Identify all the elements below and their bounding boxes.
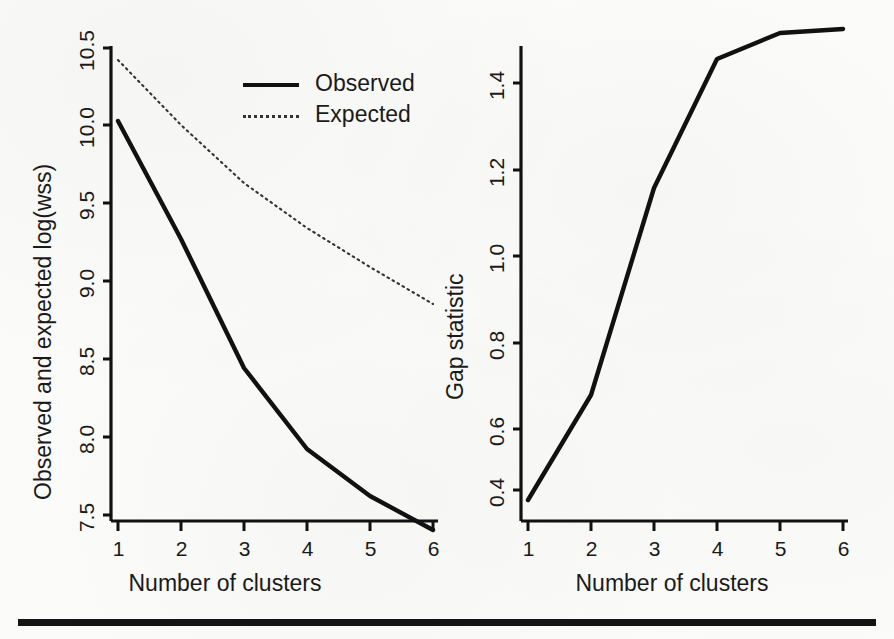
right-x-tick-label-1: 1 <box>521 538 536 559</box>
right-y-tick-label-1-4: 1.4 <box>486 56 507 116</box>
left-x-tick-label-5: 5 <box>363 538 378 559</box>
left-y-tick-label-10-5: 10.5 <box>76 21 97 81</box>
left-y-tick-label-7-5: 7.5 <box>76 488 97 548</box>
legend-entry-observed: Observed <box>243 70 433 101</box>
legend-label-observed: Observed <box>315 70 415 97</box>
legend: Observed Expected <box>243 70 433 132</box>
right-y-tick-label-1-0: 1.0 <box>486 229 507 289</box>
right-y-tick-label-0-8: 0.8 <box>486 316 507 376</box>
left-x-tick-label-2: 2 <box>174 538 189 559</box>
dotted-line-key-icon <box>243 115 299 118</box>
figure-canvas: 10.5 10.0 9.5 9.0 8.5 8.0 7.5 1 2 3 4 5 … <box>0 0 894 639</box>
left-y-axis-title: Observed and expected log(wss) <box>32 164 55 500</box>
left-y-tick-label-9-5: 9.5 <box>76 176 97 236</box>
right-x-tick-label-3: 3 <box>647 538 662 559</box>
legend-label-expected: Expected <box>315 101 411 128</box>
right-x-tick-label-2: 2 <box>584 538 599 559</box>
page-bottom-rule <box>18 619 876 626</box>
left-y-tick-label-10-0: 10.0 <box>76 98 97 158</box>
right-y-tick-label-1-2: 1.2 <box>486 143 507 203</box>
solid-line-key-icon <box>243 83 299 87</box>
right-plot-panel: 1.4 1.2 1.0 0.8 0.6 0.4 1 2 3 4 5 6 Gap … <box>450 0 894 639</box>
right-x-axis-title: Number of clusters <box>450 572 894 595</box>
left-x-axis-title: Number of clusters <box>0 572 450 595</box>
right-y-tick-label-0-6: 0.6 <box>486 402 507 462</box>
left-y-tick-label-8-5: 8.5 <box>76 332 97 392</box>
right-x-tick-label-6: 6 <box>836 538 851 559</box>
left-plot-panel: 10.5 10.0 9.5 9.0 8.5 8.0 7.5 1 2 3 4 5 … <box>0 0 450 639</box>
legend-entry-expected: Expected <box>243 101 433 132</box>
left-x-tick-label-6: 6 <box>426 538 441 559</box>
right-y-tick-label-0-4: 0.4 <box>486 463 507 523</box>
right-x-tick-label-5: 5 <box>773 538 788 559</box>
right-y-axis-title: Gap statistic <box>444 273 467 400</box>
right-plot-graphics <box>450 0 894 639</box>
left-x-tick-label-3: 3 <box>237 538 252 559</box>
left-x-tick-label-4: 4 <box>300 538 315 559</box>
gap-statistic-series-line <box>528 29 843 500</box>
left-x-tick-label-1: 1 <box>111 538 126 559</box>
left-y-tick-label-8-0: 8.0 <box>76 410 97 470</box>
observed-series-line <box>118 121 433 530</box>
left-y-tick-label-9-0: 9.0 <box>76 254 97 314</box>
right-x-tick-label-4: 4 <box>710 538 725 559</box>
